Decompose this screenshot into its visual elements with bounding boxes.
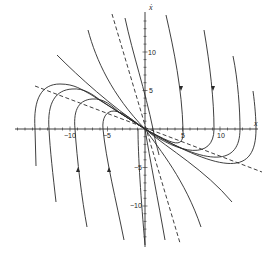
arrow-up-icon <box>107 167 111 172</box>
y-tick-label-neg10: −10 <box>130 202 142 209</box>
y-axis-label: ẋ <box>148 3 153 12</box>
x-tick-label-neg10: −10 <box>64 132 76 139</box>
y-tick-label-10: 10 <box>148 49 156 56</box>
y-tick-label-5: 5 <box>149 87 153 94</box>
arrow-up-icon <box>76 167 80 172</box>
y-tick-label-neg5: −5 <box>134 164 142 171</box>
x-tick-label-10: 10 <box>217 132 225 139</box>
phase-portrait: −10 −5 5 10 10 5 −5 −10 x ẋ <box>0 0 276 259</box>
